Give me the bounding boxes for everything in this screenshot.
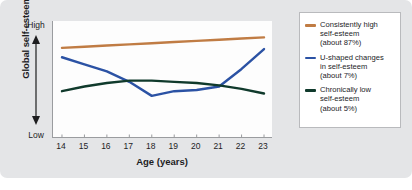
x-tick-label-15: 15: [73, 141, 93, 151]
legend-swatch-u-shaped: [305, 57, 316, 60]
chart-figure-panel: Global self-esteem High Low 141516171819…: [0, 0, 412, 178]
x-tick-label-19: 19: [163, 141, 183, 151]
legend-entry-1: U-shaped changes in self-esteem (about 7…: [305, 53, 396, 81]
x-tick-label-22: 22: [231, 141, 251, 151]
legend-label-2: Chronically low self-esteem (about 5%): [320, 85, 371, 113]
x-tick-label-17: 17: [118, 141, 138, 151]
x-tick-label-14: 14: [51, 141, 71, 151]
chart-legend: Consistently high self-esteem (about 87%…: [299, 12, 401, 128]
legend-entry-0: Consistently high self-esteem (about 87%…: [305, 20, 396, 48]
x-tick-label-21: 21: [208, 141, 228, 151]
legend-swatch-chronically-low: [305, 89, 316, 92]
series-line-0: [62, 37, 264, 48]
legend-swatch-consistently-high: [305, 24, 316, 27]
y-axis-low-label: Low: [20, 130, 52, 140]
legend-label-0: Consistently high self-esteem (about 87%…: [320, 20, 378, 48]
x-tick-label-20: 20: [186, 141, 206, 151]
chart-region: Global self-esteem High Low 141516171819…: [0, 0, 412, 178]
x-axis-title: Age (years): [52, 156, 272, 167]
plot-lines-svg: [53, 21, 273, 138]
plot-area: [52, 21, 272, 138]
legend-entry-2: Chronically low self-esteem (about 5%): [305, 85, 396, 113]
series-line-1: [62, 49, 264, 96]
y-axis-double-arrow-icon: [20, 34, 52, 126]
legend-label-1: U-shaped changes in self-esteem (about 7…: [320, 53, 384, 81]
y-axis-scale-column: High Low: [20, 20, 52, 140]
x-tick-label-18: 18: [141, 141, 161, 151]
x-tick-label-23: 23: [253, 141, 273, 151]
y-axis-high-label: High: [20, 20, 52, 30]
x-axis-tick-labels: 14151617181920212223: [52, 141, 272, 155]
series-line-2: [62, 81, 264, 94]
x-tick-label-16: 16: [96, 141, 116, 151]
